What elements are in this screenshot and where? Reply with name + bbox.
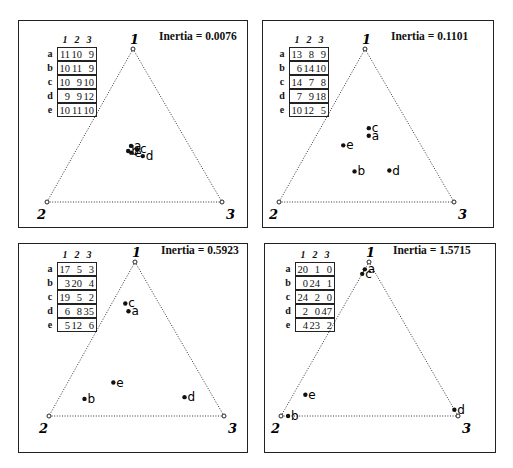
table-cell: 13 — [290, 48, 302, 61]
table-cell: 3 — [58, 277, 70, 290]
table-cell: 10 — [314, 62, 326, 75]
row-label-b: b — [45, 62, 55, 73]
table-row: 2420 — [295, 290, 335, 304]
column-header-3: 3 — [315, 34, 327, 45]
table-cell: 14 — [290, 76, 302, 89]
vertex-label-3: 3 — [462, 421, 471, 436]
table-row: 3204 — [57, 276, 97, 290]
table-cell: 6 — [290, 62, 302, 75]
table-row: 1753 — [57, 262, 97, 276]
triangle-edge — [133, 49, 222, 202]
table-row: 5126 — [57, 318, 97, 332]
table-cell: 9 — [70, 76, 82, 89]
vertex-marker — [47, 414, 51, 418]
table-cell: 1 — [308, 263, 320, 276]
column-header-1: 1 — [59, 34, 71, 45]
row-label-c: c — [283, 291, 293, 302]
table-cell: 2 — [320, 319, 332, 332]
ternary-panel-4: 123abcdeInertia = 1.5715123a2010b0241c24… — [264, 243, 496, 453]
vertex-marker — [452, 200, 456, 204]
inertia-label: Inertia = 0.0076 — [159, 30, 237, 42]
table-row: 1952 — [57, 290, 97, 304]
row-label-e: e — [277, 104, 287, 115]
table-cell: 18 — [314, 90, 326, 103]
row-label-d: d — [277, 90, 287, 101]
table-row: 7918 — [289, 89, 329, 103]
triangle-edge — [135, 262, 224, 416]
table-cell: 24 — [296, 291, 308, 304]
table-cell: 8 — [70, 305, 82, 318]
vertex-label-1: 1 — [130, 32, 139, 47]
column-header-2: 2 — [71, 34, 83, 45]
triangle-edge — [369, 262, 458, 416]
vertex-label-2: 2 — [270, 421, 280, 436]
column-header-2: 2 — [71, 249, 83, 260]
row-label-a: a — [45, 263, 55, 274]
row-label-c: c — [45, 291, 55, 302]
inertia-label: Inertia = 0.5923 — [161, 244, 239, 256]
table-cell: 24 — [308, 277, 320, 290]
table-cell: 9 — [82, 62, 94, 75]
column-header-1: 1 — [291, 34, 303, 45]
data-point-d: d — [387, 164, 400, 178]
point-label: c — [128, 296, 135, 310]
vertex-label-2: 2 — [38, 421, 48, 436]
point-label: b — [291, 409, 299, 423]
point-label: e — [346, 138, 353, 152]
column-header-1: 1 — [297, 249, 309, 260]
point-label: d — [146, 149, 154, 163]
table-cell: 10 — [70, 48, 82, 61]
table-row: 1389 — [289, 47, 329, 61]
point-label: d — [188, 390, 196, 404]
table-cell: 10 — [82, 76, 94, 89]
row-label-d: d — [283, 305, 293, 316]
vertex-label-3: 3 — [226, 207, 235, 222]
row-label-e: e — [45, 319, 55, 330]
table-cell: 12 — [302, 104, 314, 117]
table-cell: 10 — [290, 104, 302, 117]
vertex-label-1: 1 — [366, 245, 375, 260]
table-cell: 9 — [82, 48, 94, 61]
point-label: d — [457, 403, 465, 417]
table-row: 4232 — [295, 318, 335, 332]
point-label: d — [392, 164, 400, 178]
row-label-a: a — [277, 48, 287, 59]
table-row: 10910 — [57, 75, 97, 89]
ternary-panel-2: 123abcdeInertia = 0.1101123a1389b61410c1… — [262, 20, 494, 228]
data-point-e: e — [111, 376, 124, 390]
table-cell: 5 — [314, 104, 326, 117]
ternary-plot: 123abcde — [19, 244, 249, 454]
table-cell: 20 — [296, 263, 308, 276]
table-cell: 9 — [302, 90, 314, 103]
table-cell: 0 — [308, 305, 320, 318]
vertex-label-1: 1 — [132, 245, 141, 260]
table-row: 10125 — [289, 103, 329, 117]
table-cell: 2 — [296, 305, 308, 318]
vertex-marker — [133, 260, 137, 264]
table-cell: 0 — [296, 277, 308, 290]
data-point-e: e — [341, 138, 354, 152]
table-cell: 1 — [320, 277, 332, 290]
point-label: b — [87, 392, 95, 406]
table-cell: 10 — [58, 76, 70, 89]
ternary-panel-1: 123abcdeInertia = 0.0076123a11109b10119c… — [18, 20, 248, 228]
data-point-d: d — [182, 390, 195, 404]
row-label-c: c — [45, 76, 55, 87]
vertex-marker — [363, 47, 367, 51]
table-row: 11109 — [57, 47, 97, 61]
table-cell: 4 — [82, 277, 94, 290]
column-header-3: 3 — [83, 34, 95, 45]
vertex-marker — [45, 200, 49, 204]
table-cell: 5 — [70, 263, 82, 276]
table-cell: 2 — [82, 291, 94, 304]
table-cell: 10 — [82, 104, 94, 117]
table-cell: 11 — [58, 48, 70, 61]
vertex-label-3: 3 — [458, 207, 467, 222]
vertex-marker — [131, 47, 135, 51]
vertex-marker — [222, 414, 226, 418]
table-row: 101110 — [57, 103, 97, 117]
vertex-label-2: 2 — [36, 207, 46, 222]
column-header-1: 1 — [59, 249, 71, 260]
vertex-label-2: 2 — [268, 207, 278, 222]
table-row: 10119 — [57, 61, 97, 75]
